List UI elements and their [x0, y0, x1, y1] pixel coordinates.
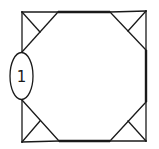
- bisector-bottom-right: [128, 121, 146, 141]
- node-1: 1: [10, 53, 33, 100]
- square-octagon-diagram: 1: [0, 0, 159, 149]
- node-label: 1: [17, 68, 27, 86]
- bisector-top-right: [128, 11, 146, 31]
- bisector-bottom-left: [22, 121, 40, 142]
- octagon-diagonals: [22, 12, 146, 141]
- square-bottom-left-segment: [22, 141, 59, 142]
- octagon-thick-edges: [58, 12, 146, 141]
- square-top-right-segment: [110, 11, 146, 12]
- bisector-top-left: [22, 12, 40, 32]
